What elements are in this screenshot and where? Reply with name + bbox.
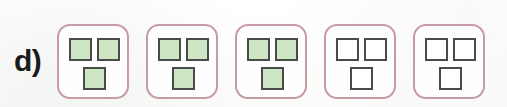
fraction-tiles-figure: d)	[0, 0, 507, 107]
cell-bottom-center[interactable]	[172, 67, 195, 90]
cell-top-right[interactable]	[453, 38, 476, 61]
cell-bottom-center[interactable]	[261, 67, 284, 90]
cell-top-right[interactable]	[186, 38, 209, 61]
cell-top-right[interactable]	[364, 38, 387, 61]
item-label: d)	[14, 43, 58, 79]
cell-top-right[interactable]	[97, 38, 120, 61]
tile-1[interactable]	[57, 24, 129, 99]
cell-bottom-center[interactable]	[350, 67, 373, 90]
cell-top-left[interactable]	[69, 38, 92, 61]
cell-bottom-center[interactable]	[439, 67, 462, 90]
cell-top-left[interactable]	[425, 38, 448, 61]
cell-top-right[interactable]	[275, 38, 298, 61]
tile-2[interactable]	[146, 24, 218, 99]
cell-top-left[interactable]	[158, 38, 181, 61]
tile-5[interactable]	[413, 24, 485, 99]
cell-top-left[interactable]	[247, 38, 270, 61]
tile-3[interactable]	[235, 24, 307, 99]
cell-bottom-center[interactable]	[83, 67, 106, 90]
cell-top-left[interactable]	[336, 38, 359, 61]
tile-4[interactable]	[324, 24, 396, 99]
